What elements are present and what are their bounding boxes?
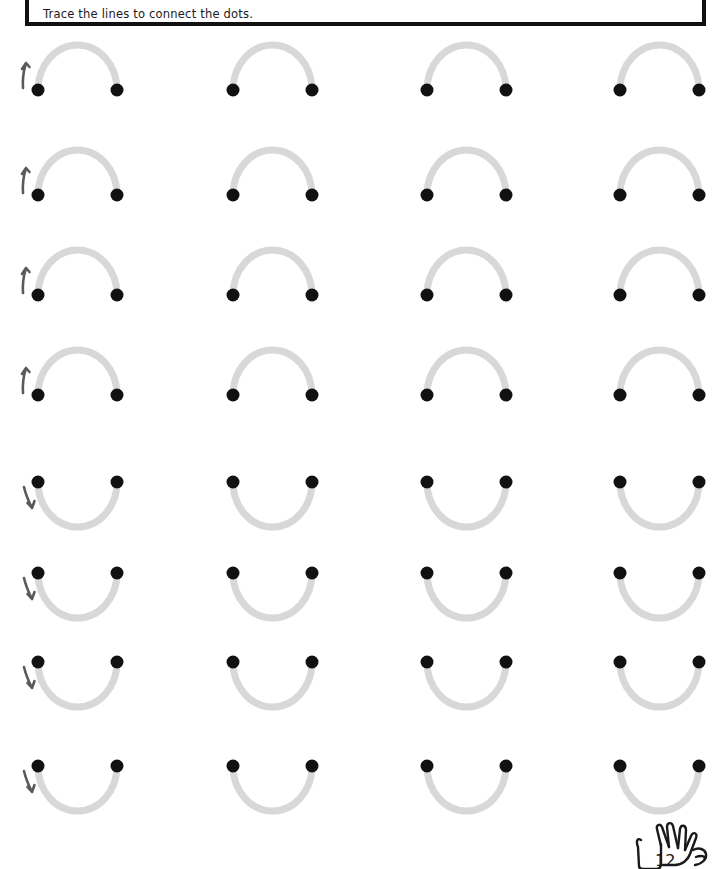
start-dot[interactable] [614,567,627,580]
end-dot[interactable] [500,389,513,402]
hand-icon: 12 [633,820,715,869]
start-dot[interactable] [32,289,45,302]
trace-exercise-arch-up-r4c2[interactable] [208,338,318,418]
trace-exercise-arch-up-r4c4[interactable] [595,338,705,418]
trace-exercise-arch-up-r1c4[interactable] [595,33,705,113]
end-dot[interactable] [111,760,124,773]
trace-exercise-arch-up-r3c1[interactable] [13,238,123,318]
trace-exercise-arch-down-r6c2[interactable] [208,561,318,641]
trace-line [233,662,312,707]
start-dot[interactable] [421,476,434,489]
trace-exercise-arch-down-r5c3[interactable] [402,470,512,550]
trace-exercise-arch-down-r5c4[interactable] [595,470,705,550]
end-dot[interactable] [693,289,706,302]
start-dot[interactable] [614,289,627,302]
trace-exercise-arch-up-r1c1[interactable] [13,33,123,113]
start-dot[interactable] [421,289,434,302]
trace-exercise-arch-up-r1c3[interactable] [402,33,512,113]
end-dot[interactable] [500,289,513,302]
end-dot[interactable] [500,189,513,202]
trace-exercise-arch-up-r3c2[interactable] [208,238,318,318]
start-dot[interactable] [421,189,434,202]
end-dot[interactable] [500,567,513,580]
start-dot[interactable] [32,476,45,489]
start-dot[interactable] [227,389,240,402]
trace-exercise-arch-down-r6c4[interactable] [595,561,705,641]
start-dot[interactable] [614,476,627,489]
end-dot[interactable] [111,656,124,669]
start-dot[interactable] [421,567,434,580]
end-dot[interactable] [500,476,513,489]
end-dot[interactable] [693,567,706,580]
start-dot[interactable] [614,656,627,669]
trace-exercise-arch-up-r2c2[interactable] [208,138,318,218]
end-dot[interactable] [693,189,706,202]
trace-exercise-arch-down-r7c1[interactable] [13,650,123,730]
start-dot[interactable] [32,567,45,580]
end-dot[interactable] [306,189,319,202]
end-dot[interactable] [500,760,513,773]
end-dot[interactable] [306,760,319,773]
start-dot[interactable] [421,656,434,669]
start-dot[interactable] [32,84,45,97]
start-dot[interactable] [32,189,45,202]
trace-exercise-arch-up-r2c3[interactable] [402,138,512,218]
end-dot[interactable] [693,389,706,402]
end-dot[interactable] [111,476,124,489]
trace-exercise-arch-down-r8c2[interactable] [208,754,318,834]
end-dot[interactable] [306,289,319,302]
end-dot[interactable] [306,476,319,489]
start-dot[interactable] [32,656,45,669]
start-dot[interactable] [421,389,434,402]
trace-exercise-arch-up-r4c3[interactable] [402,338,512,418]
start-dot[interactable] [227,760,240,773]
start-dot[interactable] [227,84,240,97]
trace-exercise-arch-up-r3c3[interactable] [402,238,512,318]
trace-exercise-arch-up-r1c2[interactable] [208,33,318,113]
start-dot[interactable] [32,389,45,402]
start-dot[interactable] [421,760,434,773]
trace-line [620,350,699,395]
end-dot[interactable] [693,84,706,97]
trace-exercise-arch-down-r6c3[interactable] [402,561,512,641]
trace-exercise-arch-down-r5c2[interactable] [208,470,318,550]
end-dot[interactable] [111,567,124,580]
start-dot[interactable] [227,567,240,580]
end-dot[interactable] [306,567,319,580]
trace-exercise-arch-down-r5c1[interactable] [13,470,123,550]
end-dot[interactable] [306,84,319,97]
start-dot[interactable] [227,656,240,669]
end-dot[interactable] [111,189,124,202]
start-dot[interactable] [227,289,240,302]
trace-exercise-arch-up-r2c4[interactable] [595,138,705,218]
end-dot[interactable] [693,760,706,773]
trace-exercise-arch-down-r8c3[interactable] [402,754,512,834]
start-dot[interactable] [614,84,627,97]
start-dot[interactable] [614,760,627,773]
start-dot[interactable] [614,389,627,402]
trace-exercise-arch-down-r7c3[interactable] [402,650,512,730]
end-dot[interactable] [500,656,513,669]
worksheet-grid [0,0,723,869]
trace-exercise-arch-down-r6c1[interactable] [13,561,123,641]
start-dot[interactable] [227,476,240,489]
end-dot[interactable] [693,476,706,489]
trace-line [233,482,312,527]
start-dot[interactable] [32,760,45,773]
trace-exercise-arch-up-r3c4[interactable] [595,238,705,318]
trace-exercise-arch-down-r7c2[interactable] [208,650,318,730]
end-dot[interactable] [693,656,706,669]
end-dot[interactable] [306,656,319,669]
trace-exercise-arch-up-r4c1[interactable] [13,338,123,418]
end-dot[interactable] [111,289,124,302]
trace-exercise-arch-down-r8c1[interactable] [13,754,123,834]
trace-exercise-arch-down-r7c4[interactable] [595,650,705,730]
start-dot[interactable] [421,84,434,97]
start-dot[interactable] [227,189,240,202]
trace-exercise-arch-up-r2c1[interactable] [13,138,123,218]
end-dot[interactable] [306,389,319,402]
start-dot[interactable] [614,189,627,202]
end-dot[interactable] [500,84,513,97]
end-dot[interactable] [111,84,124,97]
end-dot[interactable] [111,389,124,402]
